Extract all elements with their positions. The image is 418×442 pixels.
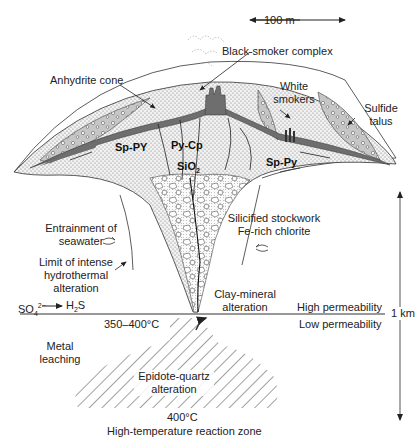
silicified-stockwork-label: Silicified stockwork Fe-rich chlorite [222, 212, 326, 238]
reaction-zone-label: High-temperature reaction zone [107, 425, 262, 438]
vertical-scale-label: 1 km [390, 307, 416, 320]
sulfate-label: SO42− [18, 299, 46, 320]
entrainment-label: Entrainment of seawater [36, 222, 126, 248]
py-cp-label: Py-Cp [171, 139, 203, 152]
white-smokers-label: White smokers [264, 80, 324, 106]
horizontal-scale-label: 100 m [264, 14, 295, 27]
limit-alteration-label: Limit of intense hydrothermal alteration [34, 256, 118, 295]
low-permeability-label: Low permeability [299, 318, 382, 331]
epidote-quartz-label: Epidote-quartz alteration [134, 370, 214, 396]
metal-leaching-label: Metal leaching [34, 340, 86, 366]
sio2-label: SiO2 [177, 160, 200, 177]
sp-py-right-label: Sp-Py [266, 156, 297, 169]
h2s-label: H2S [66, 299, 85, 316]
hydrothermal-system-diagram: 100 m Black-smoker complex Anhydrite con… [0, 0, 418, 442]
sp-py-left-label: Sp-PY [115, 141, 147, 154]
high-permeability-label: High permeability [297, 301, 382, 314]
clay-mineral-label: Clay-mineral alteration [210, 288, 280, 314]
anhydrite-cone-label: Anhydrite cone [50, 74, 123, 87]
temperature-400-label: 400°C [167, 411, 198, 424]
sulfide-talus-label: Sulfide talus [356, 102, 406, 128]
temperature-350-400-label: 350–400°C [104, 318, 159, 331]
black-smoker-complex-label: Black-smoker complex [222, 45, 333, 58]
